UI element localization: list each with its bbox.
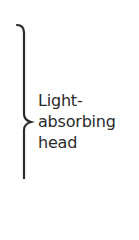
label-line-3: head	[38, 132, 116, 153]
label-line-1: Light-	[38, 90, 116, 111]
light-absorbing-head-label: Light- absorbing head	[38, 90, 116, 153]
label-line-2: absorbing	[38, 111, 116, 132]
